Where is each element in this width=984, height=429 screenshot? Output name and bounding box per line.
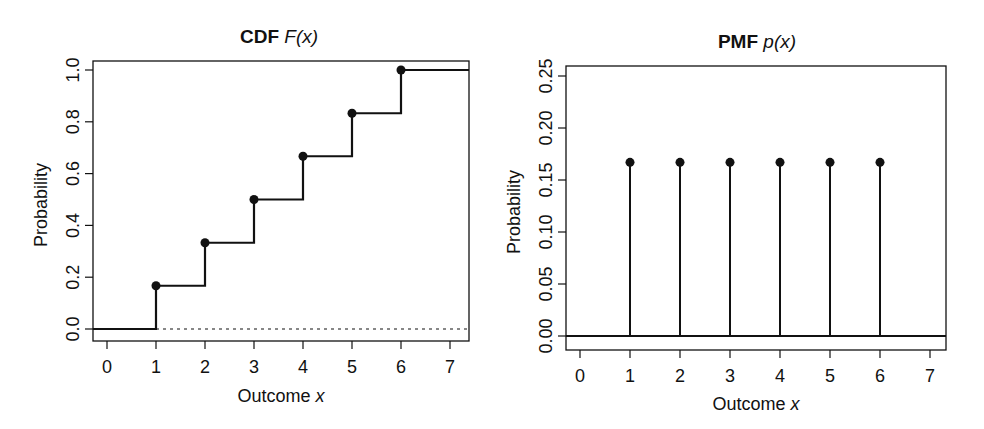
y-axis-label: Probability (31, 163, 51, 247)
chart-title-bold: PMF (718, 31, 763, 52)
y-axis: 0.000.050.100.150.200.25 (536, 58, 566, 353)
pmf-point-marker (676, 158, 685, 167)
y-tick-label: 1.0 (63, 57, 83, 82)
cdf-point-marker (201, 238, 210, 247)
y-tick-label: 0.20 (536, 110, 556, 145)
cdf-point-marker (250, 195, 259, 204)
x-axis-label-text: Outcome (237, 386, 315, 406)
x-axis-label: Outcome x (237, 386, 325, 406)
x-axis-label-var: x (315, 386, 326, 406)
x-axis-label: Outcome x (712, 394, 800, 414)
data-series (93, 66, 469, 330)
x-tick-label: 1 (625, 366, 635, 386)
cdf-step-line (93, 70, 469, 329)
x-axis: 01234567 (102, 341, 455, 377)
y-tick-label: 0.25 (536, 58, 556, 93)
plot-frame (566, 66, 946, 350)
y-axis: 0.00.20.40.60.81.0 (63, 57, 93, 341)
pmf-point-marker (876, 158, 885, 167)
y-tick-label: 0.6 (63, 161, 83, 186)
x-tick-label: 2 (200, 357, 210, 377)
cdf-point-marker (397, 66, 406, 75)
y-tick-label: 0.05 (536, 266, 556, 301)
pmf-point-marker (776, 158, 785, 167)
figure: CDF F(x)0.00.20.40.60.81.0Probability012… (0, 0, 984, 429)
y-tick-label: 0.15 (536, 162, 556, 197)
y-tick-label: 0.2 (63, 265, 83, 290)
plot-frame (93, 61, 469, 341)
cdf-chart: CDF F(x)0.00.20.40.60.81.0Probability012… (31, 26, 469, 406)
x-tick-label: 0 (575, 366, 585, 386)
cdf-point-marker (299, 152, 308, 161)
pmf-point-marker (726, 158, 735, 167)
chart-title-italic: p(x) (762, 31, 796, 52)
cdf-point-marker (348, 109, 357, 118)
y-tick-label: 0.0 (63, 316, 83, 341)
x-tick-label: 4 (775, 366, 785, 386)
x-tick-label: 5 (347, 357, 357, 377)
cdf-point-marker (152, 281, 161, 290)
x-axis-label-text: Outcome (712, 394, 790, 414)
x-tick-label: 4 (298, 357, 308, 377)
x-tick-label: 6 (396, 357, 406, 377)
chart-canvas: CDF F(x)0.00.20.40.60.81.0Probability012… (0, 0, 984, 429)
x-tick-label: 0 (102, 357, 112, 377)
x-tick-label: 5 (825, 366, 835, 386)
pmf-point-marker (626, 158, 635, 167)
chart-title: CDF F(x) (240, 26, 318, 47)
y-tick-label: 0.8 (63, 109, 83, 134)
pmf-point-marker (826, 158, 835, 167)
y-tick-label: 0.4 (63, 213, 83, 238)
x-tick-label: 3 (725, 366, 735, 386)
x-tick-label: 7 (445, 357, 455, 377)
y-tick-label: 0.00 (536, 318, 556, 353)
pmf-chart: PMF p(x)0.000.050.100.150.200.25Probabil… (504, 31, 946, 414)
chart-title-italic: F(x) (284, 26, 318, 47)
data-series (566, 158, 946, 336)
y-tick-label: 0.10 (536, 214, 556, 249)
x-tick-label: 2 (675, 366, 685, 386)
x-tick-label: 3 (249, 357, 259, 377)
x-tick-label: 6 (875, 366, 885, 386)
chart-title: PMF p(x) (718, 31, 796, 52)
y-axis-label: Probability (504, 170, 524, 254)
x-axis-label-var: x (790, 394, 801, 414)
chart-title-bold: CDF (240, 26, 284, 47)
x-axis: 01234567 (575, 350, 935, 386)
x-tick-label: 7 (925, 366, 935, 386)
x-tick-label: 1 (151, 357, 161, 377)
